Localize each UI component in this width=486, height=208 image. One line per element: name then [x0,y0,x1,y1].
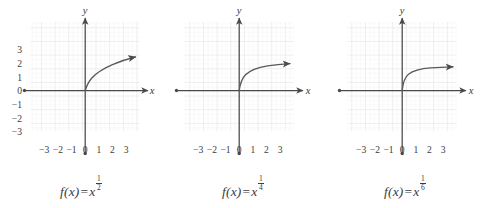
svg-text:−3: −3 [193,144,203,155]
caption-3-base: x [413,184,419,199]
svg-text:−3: −3 [39,144,49,155]
plot-area-3: −3 −2 −1 0 1 2 3 x y [324,0,486,175]
coordinate-plane-1: −3 −2 −1 0 1 2 3 3 2 1 0 −1 −2 −3 x [0,0,162,175]
svg-text:1: 1 [250,144,255,155]
caption-3-exponent: 16 [420,175,426,192]
svg-text:3: 3 [124,144,129,155]
panel-3: −3 −2 −1 0 1 2 3 x y f(x)=x16 [324,0,486,208]
svg-text:0: 0 [17,85,22,96]
x-tick-labels-2: −3 −2 −1 0 1 2 3 [193,144,283,155]
svg-text:1: 1 [96,144,101,155]
x-axis-label-2: x [305,85,311,96]
y-tick-labels-1: 3 2 1 0 −1 −2 −3 [12,44,22,137]
plot-area-1: −3 −2 −1 0 1 2 3 3 2 1 0 −1 −2 −3 x [0,0,162,175]
svg-text:−1: −1 [383,144,393,155]
caption-3-exp-den: 6 [420,184,426,192]
svg-text:2: 2 [110,144,115,155]
svg-text:3: 3 [17,44,22,55]
caption-1-base: x [89,184,95,199]
caption-1-eq: = [80,184,90,199]
y-axis-label-1: y [82,5,88,16]
caption-1-exp-den: 2 [96,184,102,192]
caption-1-exponent: 12 [96,175,102,192]
panel-2: −3 −2 −1 0 1 2 3 x y f(x)=x14 [162,0,324,208]
caption-2-exponent: 14 [258,175,264,192]
x-axis-label-3: x [468,85,474,96]
svg-text:1: 1 [413,144,418,155]
caption-2-var: (x) [226,184,242,199]
svg-text:−2: −2 [12,113,22,124]
caption-1: f(x)=x12 [0,176,162,200]
svg-text:3: 3 [278,144,283,155]
svg-text:−1: −1 [66,144,76,155]
caption-3: f(x)=x16 [324,176,486,200]
x-axis-label-1: x [149,85,155,96]
svg-text:3: 3 [441,144,446,155]
svg-text:0: 0 [237,144,242,155]
svg-text:−1: −1 [12,99,22,110]
caption-2: f(x)=x14 [162,176,324,200]
y-axis-label-2: y [236,5,242,16]
three-panel-power-function-figure: −3 −2 −1 0 1 2 3 3 2 1 0 −1 −2 −3 x [0,0,486,208]
caption-3-eq: = [404,184,414,199]
y-axis-label-3: y [399,5,405,16]
svg-text:−2: −2 [370,144,380,155]
svg-text:−1: −1 [220,144,230,155]
svg-text:2: 2 [264,144,269,155]
caption-2-exp-den: 4 [258,184,264,192]
svg-text:−3: −3 [12,126,22,137]
svg-text:2: 2 [17,58,22,69]
caption-1-var: (x) [64,184,80,199]
svg-text:0: 0 [400,144,405,155]
caption-2-base: x [251,184,257,199]
caption-2-eq: = [242,184,252,199]
svg-text:2: 2 [427,144,432,155]
x-tick-labels-1: −3 −2 −1 0 1 2 3 [39,144,129,155]
x-tick-labels-3: −3 −2 −1 0 1 2 3 [356,144,446,155]
svg-text:−2: −2 [53,144,63,155]
svg-text:−3: −3 [356,144,366,155]
svg-text:1: 1 [17,72,22,83]
panel-1: −3 −2 −1 0 1 2 3 3 2 1 0 −1 −2 −3 x [0,0,162,208]
coordinate-plane-3: −3 −2 −1 0 1 2 3 x y [324,0,486,175]
plot-area-2: −3 −2 −1 0 1 2 3 x y [162,0,324,175]
coordinate-plane-2: −3 −2 −1 0 1 2 3 x y [162,0,324,175]
caption-3-var: (x) [388,184,404,199]
svg-text:−2: −2 [207,144,217,155]
svg-text:0: 0 [83,144,88,155]
